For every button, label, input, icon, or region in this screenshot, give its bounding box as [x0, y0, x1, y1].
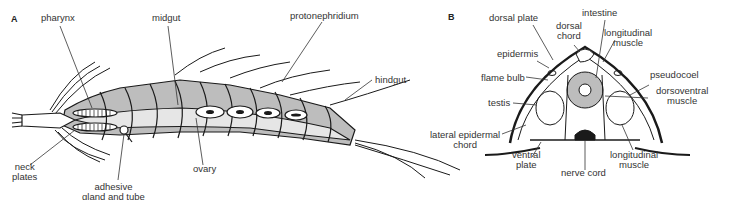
label-longitudinal-muscle-top: longitudinal muscle	[604, 28, 652, 48]
label-pseudocoel: pseudocoel	[650, 70, 699, 80]
label-dorsal-chord-line2: chord	[556, 31, 582, 41]
label-ventral-plate: ventral plate	[512, 150, 541, 170]
label-dorsal-plate: dorsal plate	[489, 13, 538, 23]
label-pharynx: pharynx	[41, 13, 75, 23]
label-adhesive-gland-and-tube: adhesive gland and tube	[82, 182, 145, 200]
label-hindgut: hindgut	[375, 75, 406, 85]
label-nerve-cord: nerve cord	[561, 168, 606, 178]
label-adhesive-line2: gland and tube	[82, 192, 145, 200]
panel-label-b: B	[448, 12, 455, 22]
label-ovary: ovary	[193, 164, 216, 174]
label-intestine: intestine	[582, 8, 617, 18]
label-dorsoventral-line2: muscle	[656, 96, 708, 106]
label-lateral-epidermal-chord: lateral epidermal chord	[430, 130, 500, 150]
label-testis: testis	[488, 98, 510, 108]
label-longitudinal-bottom-line2: muscle	[610, 160, 658, 170]
label-flame-bulb: flame bulb	[481, 73, 525, 83]
panel-label-a: A	[11, 14, 18, 24]
label-dorsoventral-muscle: dorsoventral muscle	[656, 86, 708, 106]
label-dorsal-chord: dorsal chord	[556, 21, 582, 41]
worm-body	[12, 48, 460, 178]
label-protonephridium: protonephridium	[290, 11, 359, 21]
label-midgut: midgut	[152, 13, 181, 23]
label-neck-plates-line2: plates	[12, 172, 37, 182]
label-longitudinal-top-line2: muscle	[604, 38, 652, 48]
label-ventral-line2: plate	[512, 160, 541, 170]
label-lateral-line2: chord	[430, 140, 500, 150]
label-epidermis: epidermis	[497, 49, 538, 59]
label-longitudinal-muscle-bottom: longitudinal muscle	[610, 150, 658, 170]
label-neck-plates: neck plates	[12, 162, 37, 182]
